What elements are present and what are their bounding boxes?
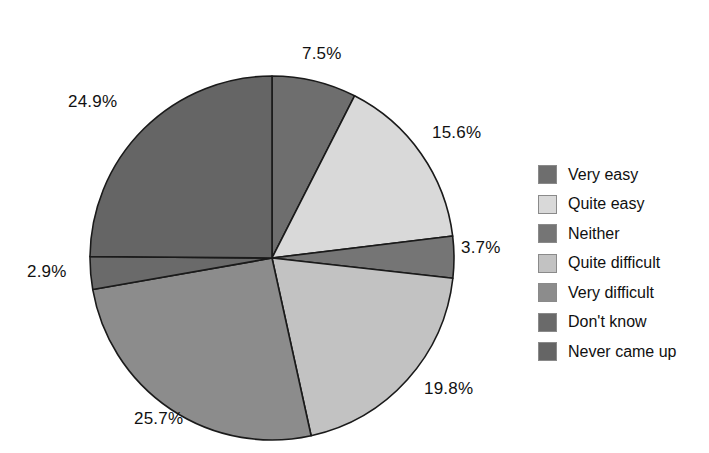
slice-value-label-neither: 3.7% — [461, 238, 501, 258]
legend-swatch-never-came-up — [538, 342, 557, 361]
slice-value-label-very-easy: 7.5% — [302, 44, 342, 64]
legend-swatch-quite-difficult — [538, 254, 557, 273]
legend-swatch-very-easy — [538, 165, 557, 184]
legend-item-very-easy[interactable]: Very easy — [538, 160, 706, 190]
legend-swatch-don-t-know — [538, 313, 557, 332]
slice-value-label-quite-easy: 15.6% — [432, 123, 481, 143]
slice-value-label-very-difficult: 25.7% — [134, 409, 183, 429]
legend-swatch-very-difficult — [538, 283, 557, 302]
slice-value-label-never-came-up: 24.9% — [68, 92, 117, 112]
pie-slice-never-came-up — [90, 76, 272, 258]
legend-item-neither[interactable]: Neither — [538, 219, 706, 249]
legend-item-very-difficult[interactable]: Very difficult — [538, 278, 706, 308]
legend-label-very-easy: Very easy — [568, 167, 638, 183]
legend-label-never-came-up: Never came up — [568, 344, 677, 360]
legend-label-don-t-know: Don't know — [568, 314, 647, 330]
pie-chart-figure: 7.5% 15.6% 3.7% 19.8% 25.7% 2.9% 24.9% V… — [0, 0, 709, 453]
slice-value-label-quite-difficult: 19.8% — [424, 379, 473, 399]
legend-item-never-came-up[interactable]: Never came up — [538, 337, 706, 367]
pie-slice-group — [90, 76, 454, 440]
legend-label-quite-difficult: Quite difficult — [568, 255, 660, 271]
chart-legend: Very easyQuite easyNeitherQuite difficul… — [538, 160, 706, 367]
pie-slice-very-difficult — [93, 258, 311, 440]
legend-swatch-quite-easy — [538, 195, 557, 214]
legend-swatch-neither — [538, 224, 557, 243]
slice-value-label-dont-know: 2.9% — [27, 262, 67, 282]
legend-label-quite-easy: Quite easy — [568, 196, 644, 212]
legend-label-very-difficult: Very difficult — [568, 285, 654, 301]
legend-item-quite-difficult[interactable]: Quite difficult — [538, 249, 706, 279]
legend-item-don-t-know[interactable]: Don't know — [538, 308, 706, 338]
legend-item-quite-easy[interactable]: Quite easy — [538, 190, 706, 220]
legend-label-neither: Neither — [568, 226, 620, 242]
